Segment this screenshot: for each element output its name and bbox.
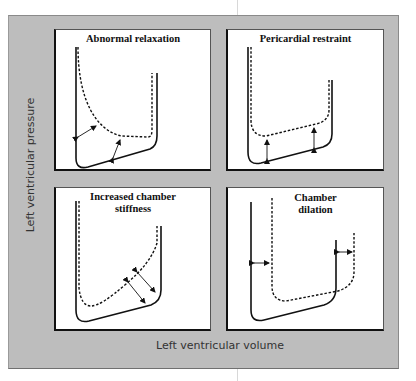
dashed-curve-restraint [251, 47, 329, 136]
pressure-volume-curves [56, 30, 211, 170]
pressure-volume-curves [228, 30, 384, 170]
panel-increased-chamber-stiffness: Increased chamber stiffness [54, 187, 211, 331]
solid-curve-normal [76, 201, 161, 322]
double-arrow [113, 140, 120, 158]
dashed-curve-stiff [79, 201, 157, 306]
panel-abnormal-relaxation: Abnormal relaxation [54, 29, 211, 171]
pressure-volume-curves [228, 188, 384, 330]
double-arrow [128, 282, 145, 303]
dashed-curve-abnormal [78, 47, 152, 137]
x-axis-label: Left ventricular volume [156, 339, 284, 352]
solid-curve-normal [248, 47, 332, 164]
panel-chamber-dilation: Chamber dilation [226, 187, 384, 331]
panel-pericardial-restraint: Pericardial restraint [226, 29, 384, 171]
solid-curve-normal [251, 202, 336, 321]
double-arrow [78, 126, 96, 137]
double-arrow [137, 272, 155, 292]
y-axis-label: Left ventricular pressure [24, 98, 37, 233]
pressure-volume-curves [56, 188, 211, 330]
dashed-curve-dilated [272, 198, 354, 301]
